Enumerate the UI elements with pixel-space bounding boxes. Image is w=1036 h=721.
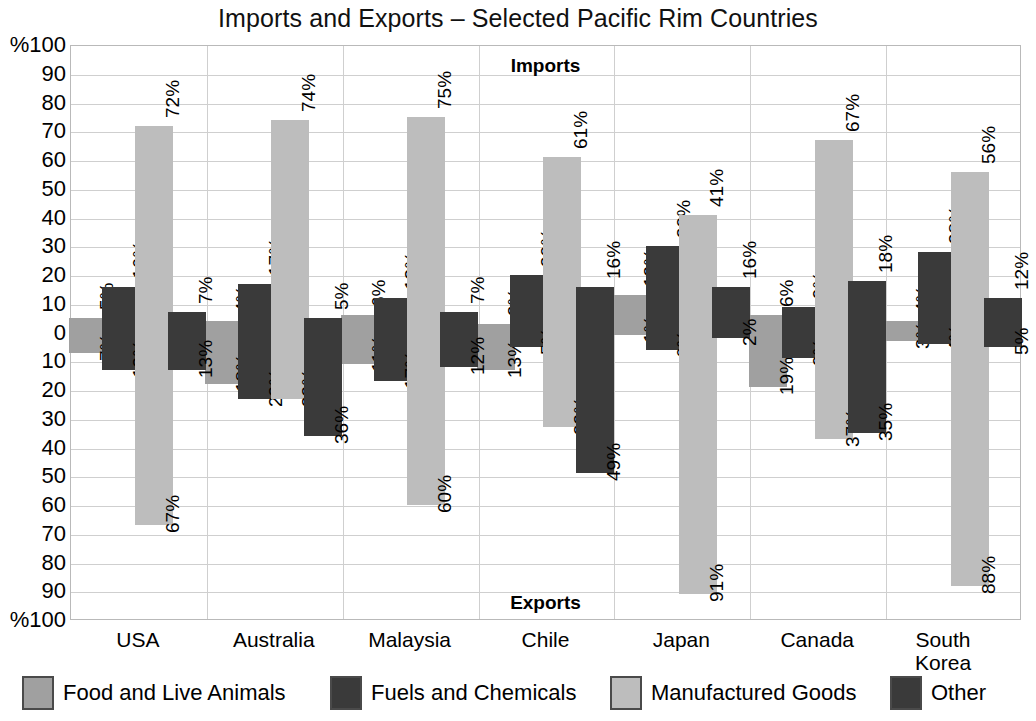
x-axis-category-label: Malaysia (342, 628, 478, 651)
bar-value-label: 2% (740, 319, 759, 346)
gridline (71, 506, 1020, 507)
y-axis-tick-label: 10 (0, 350, 66, 372)
gridline (71, 104, 1020, 105)
gridline (71, 477, 1020, 478)
y-axis-tick-label: 10 (0, 293, 66, 315)
bar-value-label: 61% (571, 111, 590, 149)
bar-value-label: 19% (777, 357, 796, 395)
legend-swatch-other (890, 676, 922, 710)
bar-value-label: 6% (777, 280, 796, 307)
bar-value-label: 56% (979, 125, 998, 163)
bar-value-label: 91% (707, 564, 726, 602)
imports-half-label: Imports (446, 55, 646, 77)
bar-value-label: 13% (196, 340, 215, 378)
bar-value-label: 60% (435, 475, 454, 513)
y-axis-tick-label: %100 (0, 34, 66, 56)
bar-value-label: 5% (1012, 327, 1031, 354)
chart-title: Imports and Exports – Selected Pacific R… (0, 4, 1036, 33)
x-axis-category-label: Chile (478, 628, 614, 651)
x-axis-category-label: Australia (206, 628, 342, 651)
x-axis-category-label: Japan (613, 628, 749, 651)
bar-value-label: 12% (1012, 252, 1031, 290)
gridline (71, 535, 1020, 536)
gridline (71, 132, 1020, 133)
gridline (71, 449, 1020, 450)
y-axis-tick-label: 90 (0, 580, 66, 602)
bar-value-label: 67% (843, 94, 862, 132)
bar-export-south-korea-2 (951, 333, 989, 586)
legend-item-fuels[interactable]: Fuels and Chemicals (330, 676, 576, 710)
bar-value-label: 16% (740, 240, 759, 278)
y-axis-tick-label: 20 (0, 379, 66, 401)
bar-value-label: 36% (332, 406, 351, 444)
legend-label: Other (931, 681, 986, 705)
y-axis-tick-label: 90 (0, 63, 66, 85)
y-axis-tick-label: 50 (0, 465, 66, 487)
y-axis-tick-label: 80 (0, 552, 66, 574)
bar-import-australia-2 (271, 120, 309, 333)
bar-value-label: 74% (299, 74, 318, 112)
bar-value-label: 49% (604, 443, 623, 481)
chart-root: Imports and Exports – Selected Pacific R… (0, 0, 1036, 721)
legend-item-other[interactable]: Other (890, 676, 986, 710)
bar-export-japan-2 (679, 333, 717, 595)
exports-half-label: Exports (446, 592, 646, 614)
bar-value-label: 35% (876, 403, 895, 441)
bar-value-label: 18% (876, 235, 895, 273)
y-axis-tick-label: 80 (0, 92, 66, 114)
y-axis-tick-label: 0 (0, 322, 66, 344)
legend-swatch-fuels (330, 676, 362, 710)
legend-item-food[interactable]: Food and Live Animals (22, 676, 286, 710)
bar-value-label: 88% (979, 555, 998, 593)
bar-import-chile-3 (576, 287, 614, 333)
bar-import-usa-3 (168, 312, 206, 332)
y-axis-tick-label: 70 (0, 120, 66, 142)
y-axis-tick-label: %100 (0, 609, 66, 631)
legend-item-manuf[interactable]: Manufactured Goods (610, 676, 856, 710)
bar-value-label: 41% (707, 169, 726, 207)
legend-label: Food and Live Animals (63, 681, 286, 705)
y-axis-tick-label: 60 (0, 149, 66, 171)
y-axis-tick-label: 40 (0, 207, 66, 229)
legend-swatch-food (22, 676, 54, 710)
bar-value-label: 5% (332, 283, 351, 310)
bar-import-malaysia-3 (440, 312, 478, 332)
gridline (71, 564, 1020, 565)
bar-import-canada-3 (848, 281, 886, 333)
bar-value-label: 67% (163, 495, 182, 533)
legend-label: Manufactured Goods (651, 681, 856, 705)
bar-import-usa-2 (135, 126, 173, 333)
y-axis-tick-label: 60 (0, 494, 66, 516)
bar-value-label: 7% (468, 277, 487, 304)
x-axis-category-label: Canada (749, 628, 885, 651)
x-axis-category-label: USA (70, 628, 206, 651)
bar-value-label: 7% (196, 277, 215, 304)
x-axis-category-label: South Korea (885, 628, 1001, 674)
y-axis-tick-label: 40 (0, 437, 66, 459)
legend-swatch-manuf (610, 676, 642, 710)
y-axis-tick-label: 30 (0, 408, 66, 430)
y-axis-tick-label: 30 (0, 235, 66, 257)
bar-value-label: 16% (604, 240, 623, 278)
legend-label: Fuels and Chemicals (371, 681, 576, 705)
bar-import-malaysia-2 (407, 117, 445, 333)
y-axis-tick-label: 70 (0, 523, 66, 545)
bar-value-label: 72% (163, 79, 182, 117)
y-axis-tick-label: 50 (0, 178, 66, 200)
chart-legend: Food and Live AnimalsFuels and Chemicals… (0, 676, 1036, 721)
y-axis-tick-label: 20 (0, 264, 66, 286)
bar-value-label: 75% (435, 71, 454, 109)
bar-value-label: 12% (468, 337, 487, 375)
bar-import-australia-3 (304, 318, 342, 332)
